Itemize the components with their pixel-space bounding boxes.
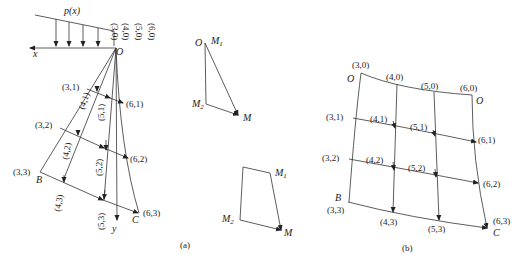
b-node-label-4-0: (4,0) bbox=[386, 72, 403, 82]
o-right-label: O bbox=[476, 95, 483, 106]
quad-m1-label: M1 bbox=[274, 167, 287, 180]
node-label-3-2: (3,2) bbox=[35, 120, 52, 130]
node-label-5-1: (5,1) bbox=[96, 104, 106, 121]
node-label-6-0: (6,0) bbox=[147, 23, 157, 40]
figure-canvas: p(x) x O (3,0) (4,0) (5,0) (6,0) y bbox=[0, 0, 527, 266]
triangle-m-label: M bbox=[242, 112, 252, 123]
b-node-label-3-1: (3,1) bbox=[326, 112, 343, 122]
b-point-c-label: C bbox=[493, 227, 500, 238]
node-label-3-0: (3,0) bbox=[110, 23, 120, 40]
caption-a: (a) bbox=[180, 240, 190, 250]
vector-triangle: O M1 M2 M bbox=[191, 35, 252, 123]
triangle-o-label: O bbox=[195, 37, 202, 48]
node-label-5-3: (5,3) bbox=[96, 213, 106, 230]
b-node-label-3-0: (3,0) bbox=[352, 60, 369, 70]
b-node-label-5-0: (5,0) bbox=[421, 81, 438, 91]
b-node-label-4-2: (4,2) bbox=[366, 155, 383, 165]
node-label-6-2: (6,2) bbox=[130, 154, 147, 164]
b-node-label-4-1: (4,1) bbox=[370, 114, 387, 124]
quad-m2-label: M2 bbox=[221, 213, 234, 226]
triangle-m2-label: M2 bbox=[191, 98, 204, 111]
b-node-label-6-2: (6,2) bbox=[483, 179, 500, 189]
b-node-label-6-3: (6,3) bbox=[493, 216, 510, 226]
x-axis-label: x bbox=[32, 48, 38, 59]
distributed-load: p(x) bbox=[35, 5, 114, 46]
b-node-label-5-3: (5,3) bbox=[428, 224, 445, 234]
b-node-label-5-2: (5,2) bbox=[408, 163, 425, 173]
node-label-5-0: (5,0) bbox=[134, 23, 144, 40]
b-node-label-4-3: (4,3) bbox=[380, 217, 397, 227]
panel-b: O O (3,0) (4,0) (5,0) (6,0) (3,1) (4,1) … bbox=[322, 60, 510, 253]
b-node-label-3-2: (3,2) bbox=[322, 153, 339, 163]
node-label-4-0: (4,0) bbox=[121, 23, 131, 40]
node-label-5-2: (5,2) bbox=[94, 159, 104, 176]
node-label-4-2: (4,2) bbox=[60, 142, 73, 161]
node-label-4-3: (4,3) bbox=[52, 194, 65, 213]
b-node-label-5-1: (5,1) bbox=[410, 122, 427, 132]
point-b-label: B bbox=[36, 174, 42, 185]
point-c-label: C bbox=[132, 214, 139, 225]
node-label-4-1: (4,1) bbox=[76, 91, 91, 111]
caption-b: (b) bbox=[402, 243, 413, 253]
triangle-m1-label: M1 bbox=[210, 35, 223, 48]
vector-quadrilateral: M1 M2 M bbox=[221, 167, 293, 238]
load-label: p(x) bbox=[63, 5, 81, 17]
y-axis-label: y bbox=[111, 223, 117, 234]
o-left-label: O bbox=[347, 73, 354, 84]
node-label-6-1: (6,1) bbox=[126, 99, 143, 109]
node-label-6-3: (6,3) bbox=[143, 208, 160, 218]
panel-a: p(x) x O (3,0) (4,0) (5,0) (6,0) y bbox=[13, 5, 293, 250]
b-node-label-6-1: (6,1) bbox=[478, 135, 495, 145]
quad-m-label: M bbox=[283, 227, 293, 238]
origin-label: O bbox=[116, 46, 123, 57]
b-node-label-3-3: (3,3) bbox=[327, 205, 344, 215]
b-node-label-6-0: (6,0) bbox=[460, 83, 477, 93]
b-point-b-label: B bbox=[335, 192, 341, 203]
node-label-3-1: (3,1) bbox=[62, 82, 79, 92]
node-label-3-3: (3,3) bbox=[13, 167, 30, 177]
